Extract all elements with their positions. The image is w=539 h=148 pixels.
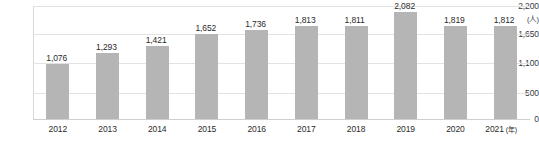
x-axis-tick-label: 2014: [148, 124, 167, 134]
bar-value-label: 1,421: [146, 35, 167, 45]
bar-slot[interactable]: 1,076: [33, 64, 83, 119]
bar-slot[interactable]: 1,736: [232, 30, 282, 119]
gridline: [33, 119, 530, 120]
bar-slot[interactable]: 1,421: [132, 46, 182, 119]
bar[interactable]: 1,813: [295, 26, 318, 119]
bar-slot[interactable]: 2,082: [381, 12, 431, 119]
bar[interactable]: 1,736: [245, 30, 268, 119]
gridline: [33, 6, 530, 7]
plot-area: 1,0761,2931,4211,6521,7361,8131,8112,082…: [33, 6, 530, 119]
x-axis-tick-label: 2019: [396, 124, 415, 134]
bar[interactable]: 1,812: [494, 26, 517, 119]
x-axis-tick-label: 2021 (年): [485, 124, 517, 134]
bar-value-label: 1,293: [96, 42, 117, 52]
x-axis-tick-label: 2012: [49, 124, 68, 134]
x-axis-tick-label: 2020: [446, 124, 465, 134]
bar-chart: (人) 05001,1001,6502,200 1,0761,2931,4211…: [0, 0, 539, 148]
bar-slot[interactable]: 1,812: [480, 26, 530, 119]
x-axis-tick-label: 2017: [297, 124, 316, 134]
bar[interactable]: 1,652: [195, 34, 218, 119]
bar-slot[interactable]: 1,813: [282, 26, 332, 119]
bar-slot[interactable]: 1,811: [331, 26, 381, 119]
bar-value-label: 1,819: [444, 15, 465, 25]
x-axis-tick-label: 2016: [247, 124, 266, 134]
bar[interactable]: 1,421: [146, 46, 169, 119]
bar[interactable]: 1,293: [96, 53, 119, 119]
x-axis-tick-label: 2013: [98, 124, 117, 134]
bar-value-label: 2,082: [394, 1, 415, 11]
bar-slot[interactable]: 1,293: [83, 53, 133, 119]
bar[interactable]: 1,811: [345, 26, 368, 119]
bar-value-label: 1,076: [46, 53, 67, 63]
bar-slot[interactable]: 1,819: [431, 26, 481, 119]
bar-value-label: 1,652: [195, 23, 216, 33]
x-axis-tick-label: 2015: [198, 124, 217, 134]
bar-value-label: 1,813: [295, 15, 316, 25]
bar[interactable]: 1,819: [444, 26, 467, 119]
bar[interactable]: 1,076: [46, 64, 69, 119]
bar-slot[interactable]: 1,652: [182, 34, 232, 119]
x-axis-tick-label: 2018: [347, 124, 366, 134]
bar-value-label: 1,811: [345, 15, 365, 25]
bar[interactable]: 2,082: [394, 12, 417, 119]
x-axis-unit-label: (年): [504, 126, 517, 133]
bar-value-label: 1,736: [245, 19, 266, 29]
bar-value-label: 1,812: [494, 15, 515, 25]
